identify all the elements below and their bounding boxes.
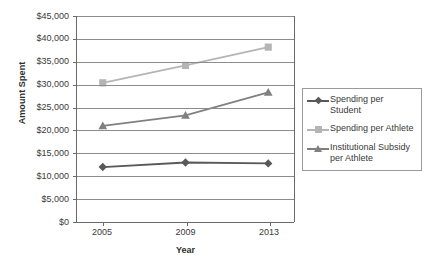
- gridline: [77, 108, 294, 109]
- data-point-marker: [181, 158, 189, 166]
- legend-label: Institutional Subsidy per Athlete: [329, 142, 417, 164]
- x-tick-mark: [270, 222, 271, 226]
- y-tick-mark: [73, 199, 77, 200]
- legend-item[interactable]: Institutional Subsidy per Athlete: [307, 142, 417, 164]
- gridline: [77, 199, 294, 200]
- y-tick-mark: [73, 130, 77, 131]
- gridline: [77, 62, 294, 63]
- y-tick-mark: [73, 62, 77, 63]
- legend-label: Spending per Athlete: [329, 123, 414, 134]
- gridline: [77, 176, 294, 177]
- legend-label: Spending per Student: [329, 94, 417, 116]
- y-tick-mark: [73, 108, 77, 109]
- x-axis-tick-labels: 200520092013: [76, 228, 295, 242]
- x-tick-label: 2013: [259, 228, 279, 237]
- x-axis-line: [77, 222, 294, 223]
- y-tick-label: $40,000: [36, 34, 69, 43]
- y-tick-label: $30,000: [36, 80, 69, 89]
- gridline: [77, 85, 294, 86]
- y-tick-mark: [73, 16, 77, 17]
- legend-square-icon: [307, 124, 329, 135]
- chart-legend: Spending per StudentSpending per Athlete…: [302, 88, 422, 171]
- series-overlay: [77, 16, 294, 222]
- y-tick-label: $20,000: [36, 126, 69, 135]
- data-point-marker: [99, 163, 107, 171]
- legend-triangle-icon: [307, 143, 329, 154]
- data-point-marker: [182, 62, 189, 69]
- y-tick-mark: [73, 39, 77, 40]
- gridline: [77, 130, 294, 131]
- line-chart: Amount Spent $0$5,000$10,000$15,000$20,0…: [0, 0, 434, 267]
- x-tick-label: 2009: [175, 228, 195, 237]
- legend-item[interactable]: Spending per Student: [307, 94, 417, 116]
- x-axis-title: Year: [76, 245, 295, 255]
- y-tick-mark: [73, 153, 77, 154]
- y-tick-label: $45,000: [36, 12, 69, 21]
- y-tick-label: $5,000: [41, 195, 69, 204]
- plot-area: [76, 16, 295, 222]
- y-tick-label: $35,000: [36, 57, 69, 66]
- gridline: [77, 39, 294, 40]
- data-point-marker: [264, 159, 272, 167]
- y-tick-mark: [73, 222, 77, 223]
- data-point-marker: [264, 88, 273, 96]
- y-tick-mark: [73, 176, 77, 177]
- x-tick-mark: [187, 222, 188, 226]
- gridline: [77, 16, 294, 17]
- y-tick-label: $25,000: [36, 103, 69, 112]
- y-tick-label: $15,000: [36, 149, 69, 158]
- x-tick-label: 2005: [92, 228, 112, 237]
- series-line: [103, 92, 268, 125]
- y-axis-tick-labels: $0$5,000$10,000$15,000$20,000$25,000$30,…: [0, 0, 74, 267]
- x-tick-mark: [103, 222, 104, 226]
- data-point-marker: [265, 44, 272, 51]
- y-tick-label: $10,000: [36, 172, 69, 181]
- y-tick-label: $0: [59, 218, 69, 227]
- y-tick-mark: [73, 85, 77, 86]
- legend-diamond-icon: [307, 95, 329, 106]
- legend-item[interactable]: Spending per Athlete: [307, 123, 417, 135]
- gridline: [77, 153, 294, 154]
